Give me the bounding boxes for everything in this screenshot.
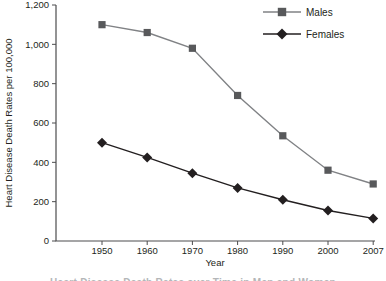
y-axis-title: Heart Disease Death Rates per 100,000 (3, 39, 14, 208)
females-diamond-marker-icon (277, 29, 288, 40)
x-tick-label: 1960 (137, 245, 158, 256)
males-square-marker-icon (98, 21, 105, 28)
females-diamond-marker-icon (233, 183, 243, 193)
y-tick-label: 600 (33, 117, 49, 128)
y-tick-label: 1,000 (25, 39, 49, 50)
data-series (97, 21, 378, 223)
y-tick-label: 1,200 (25, 0, 49, 10)
legend: Males Females (263, 7, 344, 40)
females-diamond-marker-icon (187, 168, 197, 178)
x-tick-label: 2007 (363, 245, 384, 256)
males-square-marker-icon (189, 45, 196, 52)
females-diamond-marker-icon (323, 206, 333, 216)
x-tick-label: 1990 (272, 245, 293, 256)
legend-item-males: Males (263, 7, 333, 18)
x-tick-label: 2000 (317, 245, 338, 256)
y-tick-label: 0 (44, 235, 49, 246)
x-tick-label: 1970 (182, 245, 203, 256)
males-square-marker-icon (370, 180, 377, 187)
legend-label-males: Males (306, 7, 333, 18)
females-diamond-marker-icon (278, 195, 288, 205)
females-diamond-marker-icon (142, 152, 152, 162)
males-square-marker-icon (324, 167, 331, 174)
males-square-marker-icon (279, 132, 286, 139)
legend-item-females: Females (263, 29, 344, 40)
line-chart: 02004006008001,0001,20019501960197019801… (0, 0, 386, 281)
males-square-marker-icon (234, 92, 241, 99)
females-diamond-marker-icon (97, 138, 107, 148)
y-tick-label: 800 (33, 78, 49, 89)
y-tick-label: 200 (33, 196, 49, 207)
chart-figure: 02004006008001,0001,20019501960197019801… (0, 0, 386, 281)
x-axis-title: Year (205, 257, 224, 268)
males-square-marker-icon (278, 8, 286, 16)
legend-label-females: Females (306, 29, 344, 40)
x-tick-label: 1980 (227, 245, 248, 256)
females-line (102, 143, 373, 219)
females-diamond-marker-icon (368, 213, 378, 223)
y-tick-label: 400 (33, 157, 49, 168)
males-line (102, 25, 373, 184)
cropped-caption: Heart Disease Death Rates over Time in M… (0, 277, 386, 281)
axis-line (56, 5, 375, 241)
x-tick-label: 1950 (91, 245, 112, 256)
males-square-marker-icon (144, 29, 151, 36)
